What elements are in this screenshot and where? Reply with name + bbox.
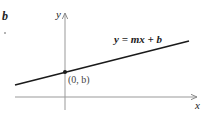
intercept-label: (0, b) [68,75,90,85]
equation-label: y = mx + b [114,34,162,45]
line-graph [0,0,210,117]
y-axis-label: y [56,9,61,20]
cropped-text-fragment: b [2,10,8,22]
y-intercept-point [63,70,67,74]
linear-function-line [15,41,189,85]
fragment-dot [4,32,6,34]
x-axis-label: x [195,100,200,111]
